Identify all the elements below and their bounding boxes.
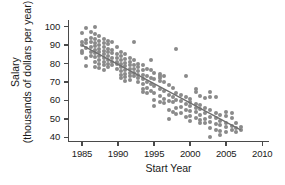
data-point bbox=[149, 58, 153, 62]
data-point bbox=[102, 63, 106, 67]
y-tick-80 bbox=[64, 63, 68, 64]
data-point bbox=[174, 91, 178, 95]
x-tick-2010 bbox=[262, 142, 263, 146]
x-tick-label-2010: 2010 bbox=[242, 149, 282, 159]
y-tick-label-90: 90 bbox=[38, 40, 60, 50]
data-point bbox=[174, 106, 178, 110]
data-point bbox=[102, 68, 106, 72]
data-point bbox=[128, 78, 132, 82]
data-point bbox=[152, 71, 156, 75]
data-point bbox=[152, 84, 156, 88]
data-point bbox=[141, 68, 145, 72]
data-point bbox=[115, 45, 119, 49]
data-point bbox=[224, 121, 228, 125]
y-tick-label-100: 100 bbox=[38, 22, 60, 32]
x-axis-line bbox=[68, 141, 269, 142]
x-tick-label-1995: 1995 bbox=[134, 149, 174, 159]
data-point bbox=[162, 97, 166, 101]
x-tick-label-2005: 2005 bbox=[206, 149, 246, 159]
data-point bbox=[203, 121, 207, 125]
data-point bbox=[203, 111, 207, 115]
data-point bbox=[167, 117, 171, 121]
x-tick-2000 bbox=[189, 142, 190, 146]
data-point bbox=[174, 112, 178, 116]
data-point bbox=[93, 25, 97, 29]
data-point bbox=[97, 62, 101, 66]
x-tick-1995 bbox=[153, 142, 154, 146]
y-tick-label-50: 50 bbox=[38, 114, 60, 124]
scatter-plot-figure: 405060708090100 198519901995200020052010… bbox=[0, 0, 285, 185]
data-point bbox=[208, 108, 212, 112]
data-point bbox=[167, 99, 171, 103]
y-axis-title-main: Salary bbox=[9, 0, 21, 147]
data-point bbox=[115, 67, 119, 71]
data-point bbox=[141, 77, 145, 81]
data-point bbox=[239, 128, 243, 132]
y-tick-70 bbox=[64, 81, 68, 82]
data-point bbox=[152, 104, 156, 108]
data-point bbox=[141, 82, 145, 86]
x-tick-1990 bbox=[117, 142, 118, 146]
y-tick-90 bbox=[64, 44, 68, 45]
data-point bbox=[203, 96, 207, 100]
data-point bbox=[224, 130, 228, 134]
data-point bbox=[167, 108, 171, 112]
y-axis-title-sub: (thousands of dollars per year) bbox=[21, 0, 33, 147]
y-tick-label-60: 60 bbox=[38, 95, 60, 105]
y-tick-100 bbox=[64, 26, 68, 27]
y-tick-label-70: 70 bbox=[38, 77, 60, 87]
data-point bbox=[214, 95, 218, 99]
y-axis-title: Salary (thousands of dollars per year) bbox=[9, 0, 33, 147]
data-point bbox=[141, 73, 145, 77]
y-tick-40 bbox=[64, 137, 68, 138]
data-point bbox=[167, 83, 171, 87]
data-point bbox=[80, 31, 84, 35]
data-point bbox=[167, 93, 171, 97]
y-axis-line bbox=[68, 20, 69, 142]
data-point bbox=[102, 37, 106, 41]
y-tick-label-40: 40 bbox=[38, 132, 60, 142]
data-point bbox=[132, 58, 136, 62]
x-tick-1985 bbox=[81, 142, 82, 146]
y-tick-60 bbox=[64, 100, 68, 101]
data-point bbox=[194, 90, 198, 94]
x-axis-title: Start Year bbox=[69, 163, 268, 174]
x-tick-2005 bbox=[225, 142, 226, 146]
data-point bbox=[188, 119, 192, 123]
y-tick-label-80: 80 bbox=[38, 59, 60, 69]
data-point bbox=[174, 47, 178, 51]
data-point bbox=[208, 120, 212, 124]
data-point bbox=[203, 106, 207, 110]
data-point bbox=[141, 90, 145, 94]
data-point bbox=[198, 107, 202, 111]
y-tick-50 bbox=[64, 118, 68, 119]
x-tick-label-2000: 2000 bbox=[170, 149, 210, 159]
x-tick-label-1990: 1990 bbox=[98, 149, 138, 159]
x-tick-label-1985: 1985 bbox=[62, 149, 102, 159]
data-point bbox=[141, 63, 145, 67]
data-point bbox=[230, 116, 234, 120]
